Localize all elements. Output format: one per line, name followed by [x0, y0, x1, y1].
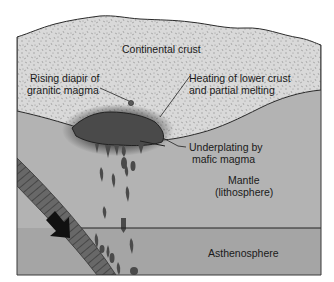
granitic-diapir	[128, 100, 133, 105]
label-mantle: Mantle	[228, 174, 260, 186]
label-diapir-line2: granitic magma	[27, 84, 99, 96]
label-underplating-line1: Underplating by	[189, 141, 263, 153]
label-lithosphere: (lithosphere)	[215, 186, 273, 198]
label-asthenosphere: Asthenosphere	[208, 247, 279, 259]
label-heating-line1: Heating of lower crust	[189, 72, 291, 84]
label-heating-line2: and partial melting	[189, 84, 275, 96]
magma-underplating-diagram: Continental crust Rising diapir of grani…	[0, 0, 334, 282]
label-diapir-line1: Rising diapir of	[30, 72, 99, 84]
label-continental-crust: Continental crust	[122, 43, 201, 55]
label-underplating-line2: mafic magma	[192, 153, 255, 165]
